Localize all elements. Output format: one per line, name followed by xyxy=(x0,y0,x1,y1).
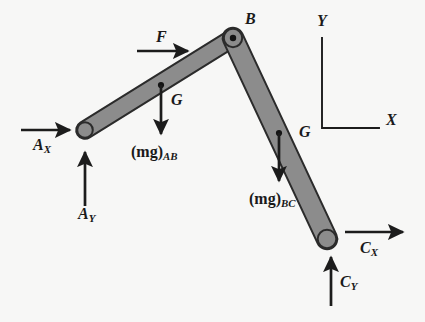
label-reaction-Ax-sub: X xyxy=(44,143,51,155)
label-weight-AB: (mg)AB xyxy=(131,144,178,160)
label-axis-Y: Y xyxy=(317,13,327,29)
label-reaction-Cy: CY xyxy=(340,274,357,290)
link-end-A xyxy=(77,122,93,138)
label-reaction-Ay-main: A xyxy=(78,205,89,222)
label-reaction-Cx: CX xyxy=(360,240,378,256)
label-axis-X: X xyxy=(386,112,397,128)
link-end-C xyxy=(318,230,337,249)
label-reaction-Cy-sub: Y xyxy=(351,280,358,292)
pin-B-dot xyxy=(230,35,236,41)
axes-polyline xyxy=(322,38,379,128)
label-reaction-Ay-sub: Y xyxy=(89,212,96,224)
label-weight-BC-sub: BC xyxy=(281,197,296,209)
free-body-diagram: B G G F AX AY (mg)AB (mg)BC CX CY Y X xyxy=(0,0,425,322)
label-reaction-Ax: AX xyxy=(33,137,51,153)
label-joint-B: B xyxy=(245,11,256,27)
coordinate-axes xyxy=(322,38,379,128)
label-weight-BC: (mg)BC xyxy=(249,191,296,207)
label-reaction-Cx-main: C xyxy=(360,239,371,256)
label-reaction-Ax-main: A xyxy=(33,136,44,153)
label-weight-AB-main: (mg) xyxy=(131,143,163,160)
mechanism-links xyxy=(77,29,336,249)
label-reaction-Cy-main: C xyxy=(340,273,351,290)
label-weight-BC-main: (mg) xyxy=(249,190,281,207)
label-weight-AB-sub: AB xyxy=(163,150,178,162)
label-G-AB: G xyxy=(171,92,183,108)
label-reaction-Cx-sub: X xyxy=(371,246,378,258)
label-reaction-Ay: AY xyxy=(78,206,95,222)
label-applied-force-F: F xyxy=(156,29,167,45)
diagram-canvas xyxy=(0,0,425,322)
label-G-BC: G xyxy=(299,124,311,140)
force-arrows xyxy=(21,51,403,306)
